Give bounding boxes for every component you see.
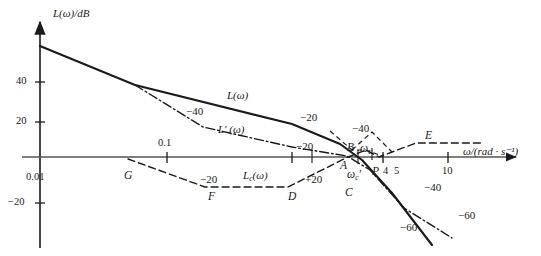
point-label-P: P <box>372 166 379 178</box>
slope-label-minus20-dashdot: −20 <box>296 141 313 152</box>
y-tick-label-40: 40 <box>16 76 27 87</box>
point-label-E: E <box>425 130 432 142</box>
x-tick-label-4: 4 <box>383 166 388 177</box>
curve-L-omega <box>40 46 432 245</box>
omega-c-prime-mark: ′ <box>358 168 361 180</box>
x-tick-label-10: 10 <box>442 166 453 177</box>
curve-label-Lc-tail: (ω) <box>252 169 267 181</box>
point-label-B: B <box>347 142 354 154</box>
point-label-G: G <box>124 170 132 182</box>
slope-label-minus60-solid: −60 <box>400 222 417 233</box>
y-tick-label-20: 20 <box>16 116 27 127</box>
x-tick-label-0p01: 0.01 <box>26 172 44 183</box>
y-tick-label-minus20: −20 <box>8 197 24 208</box>
point-label-omega-c: ωc <box>360 143 371 155</box>
point-label-C: C <box>345 187 353 199</box>
curve-label-Lc: Lc(ω) <box>243 170 268 182</box>
omega-c-prime-symbol: ω <box>347 168 355 180</box>
point-label-F: F <box>208 191 215 203</box>
slope-label-plus20-lc: +20 <box>305 174 322 185</box>
bode-plot-figure: L(ω)/dB ω/(rad · s⁻¹) 40 20 −20 0.01 0.1… <box>0 0 541 256</box>
x-axis-label: ω/(rad · s⁻¹) <box>463 146 518 157</box>
slope-label-minus60-dashdot: −60 <box>458 210 475 221</box>
slope-label-minus20-solid: −20 <box>300 112 317 123</box>
point-label-omega-c-prime: ωc′ <box>347 169 361 181</box>
curve-L-prime-omega <box>135 85 452 238</box>
slope-label-minus40-upper: −40 <box>186 106 203 117</box>
curve-label-L: L(ω) <box>227 90 248 101</box>
curve-label-L-prime: L′ (ω) <box>218 124 244 135</box>
point-label-A: A <box>340 160 347 172</box>
omega-c-symbol: ω <box>360 142 368 154</box>
slope-label-minus40-lower: −40 <box>424 182 441 193</box>
x-tick-label-5: 5 <box>394 166 399 177</box>
omega-c-subscript: c <box>368 147 371 156</box>
slope-label-minus20-lc: −20 <box>200 174 217 185</box>
x-tick-label-0p1: 0.1 <box>158 138 171 149</box>
y-axis-label: L(ω)/dB <box>53 8 90 19</box>
slope-label-minus40-mid: −40 <box>352 123 369 134</box>
point-label-D: D <box>288 191 296 203</box>
